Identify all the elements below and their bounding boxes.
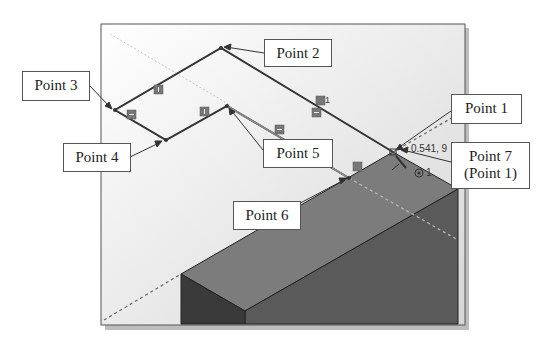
callout-point-5: Point 5 xyxy=(263,139,333,168)
point-2-marker[interactable] xyxy=(219,46,223,50)
coincident-count-label: 1 xyxy=(325,95,330,105)
callout-point-7-title: Point 7 xyxy=(460,148,521,165)
concentric-icon-center xyxy=(418,172,421,175)
coincident-relation-icon xyxy=(316,96,325,105)
callout-point-4: Point 4 xyxy=(63,143,131,172)
callout-point-6: Point 6 xyxy=(233,201,301,230)
concentric-count-label: 1 xyxy=(426,167,432,178)
point-3-marker[interactable] xyxy=(113,108,117,112)
sketch-diagram: Point 2 Point 3 Point 4 Point 5 Point 6 … xyxy=(0,0,549,341)
coincident-relation-icon xyxy=(353,162,362,171)
cursor-coordinates: 0.541, 9 xyxy=(411,143,447,154)
callout-point-7-subtitle: (Point 1) xyxy=(460,165,521,182)
callout-point-7: Point 7 (Point 1) xyxy=(451,142,530,189)
callout-point-2: Point 2 xyxy=(264,39,332,67)
point-4-marker[interactable] xyxy=(164,138,168,142)
callout-point-3: Point 3 xyxy=(22,71,90,101)
point-5-marker[interactable] xyxy=(225,104,229,108)
callout-point-1: Point 1 xyxy=(451,94,522,124)
